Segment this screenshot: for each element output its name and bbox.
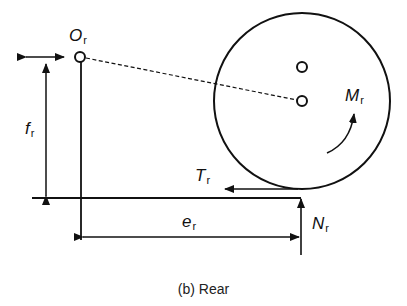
offset-label: er: [182, 213, 196, 232]
pivot-circle: [75, 52, 85, 62]
swing-arm-dashed-line: [86, 58, 297, 100]
hub-upper-circle: [297, 62, 307, 72]
hub-center-circle: [297, 96, 307, 106]
pivot-label: Or: [69, 27, 87, 46]
normal-label: Nr: [312, 215, 329, 234]
figure-caption: (b) Rear: [0, 281, 407, 297]
moment-label: Mr: [345, 87, 364, 106]
traction-label: Tr: [195, 167, 210, 186]
rear-suspension-diagram: [0, 0, 407, 306]
moment-curved-arrow: [327, 114, 354, 153]
height-label: fr: [25, 120, 34, 139]
